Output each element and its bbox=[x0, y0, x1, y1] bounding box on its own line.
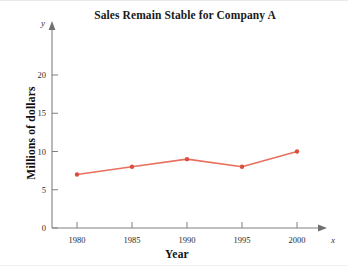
x-tick-label-1985: 1985 bbox=[124, 235, 141, 245]
x-tick-label-1990: 1990 bbox=[179, 235, 196, 245]
x-axis-title: Year bbox=[52, 248, 302, 260]
y-tick-label-5: 5 bbox=[42, 185, 46, 195]
x-tick-label-1980: 1980 bbox=[69, 235, 86, 245]
x-tick-label-1995: 1995 bbox=[234, 235, 251, 245]
y-tick-label-20: 20 bbox=[38, 70, 47, 80]
data-point-1980 bbox=[75, 172, 79, 176]
y-tick-label-15: 15 bbox=[38, 108, 47, 118]
x-axis-letter: x bbox=[330, 235, 335, 245]
data-point-1990 bbox=[185, 157, 189, 161]
y-axis-letter: y bbox=[40, 18, 45, 28]
y-axis-title: Millions of dollars bbox=[25, 58, 37, 208]
data-point-2000 bbox=[295, 149, 299, 153]
x-tick-labels: 1980 1985 1990 1995 2000 bbox=[69, 235, 306, 245]
y-axis-ticks bbox=[52, 75, 58, 228]
data-point-1995 bbox=[240, 165, 244, 169]
plot-area: 0 5 10 15 20 1980 1985 1990 1995 2000 y … bbox=[0, 0, 348, 274]
x-tick-label-2000: 2000 bbox=[289, 235, 306, 245]
y-tick-label-10: 10 bbox=[38, 147, 47, 157]
y-tick-label-0: 0 bbox=[42, 223, 46, 233]
y-tick-labels: 0 5 10 15 20 bbox=[38, 70, 47, 233]
y-axis bbox=[49, 21, 56, 228]
data-point-1985 bbox=[130, 165, 134, 169]
data-line-series-1 bbox=[77, 152, 297, 175]
x-axis-ticks bbox=[77, 222, 297, 228]
data-point-markers bbox=[75, 149, 299, 176]
chart-figure: Sales Remain Stable for Company A bbox=[0, 0, 348, 274]
x-axis bbox=[52, 225, 327, 232]
